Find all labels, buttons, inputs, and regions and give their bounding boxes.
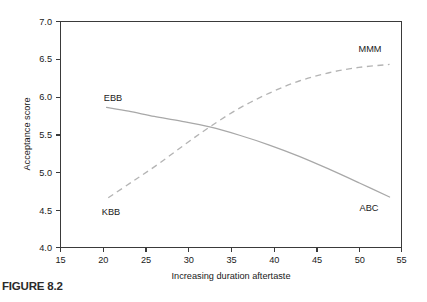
x-tick-label-45: 45 <box>312 255 322 265</box>
y-tick-label-5.0: 5.0 <box>39 168 52 178</box>
series-label-ebb: EBB <box>104 93 122 103</box>
x-tick-label-25: 25 <box>141 255 151 265</box>
x-tick-label-35: 35 <box>226 255 236 265</box>
x-axis-tick-labels: 15 20 25 30 35 40 45 50 55 <box>55 255 406 265</box>
y-tick-label-6.0: 6.0 <box>39 92 52 102</box>
y-tick-label-4.0: 4.0 <box>39 243 52 253</box>
y-axis-ticks <box>56 22 60 248</box>
x-tick-label-40: 40 <box>269 255 279 265</box>
x-tick-label-50: 50 <box>355 255 365 265</box>
series-label-kbb: KBB <box>102 207 120 217</box>
y-axis-title: Acceptance score <box>22 97 32 170</box>
series-label-mmm: MMM <box>359 44 382 54</box>
y-tick-label-7.0: 7.0 <box>39 17 52 27</box>
x-axis-ticks <box>61 248 402 252</box>
series-group <box>107 64 390 197</box>
figure-container: 7.0 6.5 6.0 5.5 5.0 4.5 4.0 15 20 25 30 … <box>0 0 427 302</box>
y-axis-tick-labels: 7.0 6.5 6.0 5.5 5.0 4.5 4.0 <box>39 17 52 253</box>
series-line-ebb-abc <box>107 107 390 197</box>
series-label-abc: ABC <box>360 203 379 213</box>
figure-caption: FIGURE 8.2 <box>2 280 63 292</box>
y-tick-label-5.5: 5.5 <box>39 130 52 140</box>
x-tick-label-15: 15 <box>55 255 65 265</box>
x-tick-label-20: 20 <box>98 255 108 265</box>
y-tick-label-6.5: 6.5 <box>39 54 52 64</box>
y-tick-label-4.5: 4.5 <box>39 206 52 216</box>
x-tick-label-55: 55 <box>396 255 406 265</box>
x-tick-label-30: 30 <box>184 255 194 265</box>
chart-canvas: 7.0 6.5 6.0 5.5 5.0 4.5 4.0 15 20 25 30 … <box>0 0 427 302</box>
x-axis-title: Increasing duration aftertaste <box>172 271 291 281</box>
